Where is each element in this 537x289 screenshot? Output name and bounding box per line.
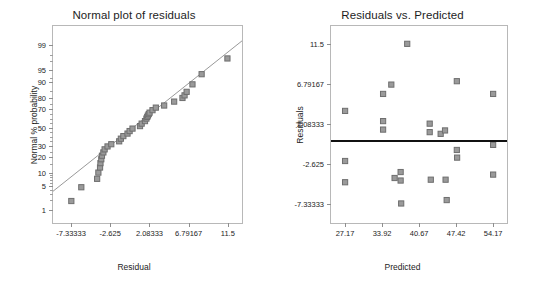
residuals-vs-predicted-panel: Residuals vs. Predicted 27.1733.9240.674… bbox=[268, 0, 537, 289]
residuals-vs-predicted-y-axis-title: Residuals bbox=[295, 85, 305, 165]
normal-plot-title: Normal plot of residuals bbox=[0, 9, 268, 21]
y-minor-tick bbox=[50, 141, 53, 142]
x-tick-label: -2.625 bbox=[100, 229, 121, 238]
y-tick bbox=[327, 164, 331, 165]
y-minor-tick bbox=[50, 91, 53, 92]
data-point bbox=[399, 201, 404, 206]
data-point bbox=[95, 176, 100, 181]
data-point bbox=[443, 177, 448, 182]
y-minor-tick bbox=[50, 104, 53, 105]
y-tick bbox=[49, 45, 53, 46]
y-minor-tick bbox=[50, 78, 53, 79]
data-point bbox=[454, 79, 459, 84]
y-minor-tick bbox=[50, 180, 53, 181]
y-tick-label: 10 bbox=[38, 168, 46, 177]
y-tick bbox=[327, 44, 331, 45]
data-point bbox=[199, 72, 204, 77]
x-tick bbox=[345, 223, 346, 227]
data-point bbox=[398, 178, 403, 183]
data-point bbox=[342, 158, 347, 163]
residuals-vs-predicted-canvas bbox=[331, 26, 507, 223]
data-point bbox=[428, 177, 433, 182]
data-point bbox=[184, 89, 189, 94]
y-tick-label: -2.625 bbox=[303, 159, 324, 168]
y-tick bbox=[49, 210, 53, 211]
y-tick-label: 1 bbox=[42, 205, 46, 214]
y-minor-tick bbox=[50, 190, 53, 191]
y-tick-label: 99 bbox=[38, 41, 46, 50]
y-minor-tick bbox=[50, 194, 53, 195]
data-point bbox=[380, 127, 385, 132]
y-tick bbox=[49, 157, 53, 158]
y-minor-tick bbox=[50, 177, 53, 178]
data-point bbox=[454, 147, 459, 152]
y-tick bbox=[49, 186, 53, 187]
normal-plot-x-axis-title: Residual bbox=[0, 262, 268, 272]
data-point bbox=[190, 82, 195, 87]
y-tick bbox=[49, 109, 53, 110]
data-point bbox=[109, 142, 114, 147]
data-point bbox=[79, 185, 84, 190]
y-minor-tick bbox=[50, 55, 53, 56]
data-point bbox=[130, 126, 135, 131]
normal-plot-y-axis-title: Normal % probability bbox=[29, 85, 39, 165]
y-minor-tick bbox=[50, 200, 53, 201]
y-minor-tick bbox=[50, 164, 53, 165]
y-minor-tick bbox=[50, 132, 53, 133]
y-tick-label: 5 bbox=[42, 181, 46, 190]
normal-plot-canvas bbox=[53, 26, 242, 223]
y-minor-tick bbox=[50, 137, 53, 138]
y-tick-label: 95 bbox=[38, 65, 46, 74]
x-tick bbox=[456, 223, 457, 227]
data-point bbox=[444, 197, 449, 202]
y-tick bbox=[49, 128, 53, 129]
data-point bbox=[342, 180, 347, 185]
residuals-vs-predicted-plot-area: 27.1733.9240.6747.4254.1711.56.791672.08… bbox=[330, 25, 508, 224]
x-tick bbox=[110, 223, 111, 227]
y-tick bbox=[327, 204, 331, 205]
x-tick bbox=[189, 223, 190, 227]
zero-reference-line bbox=[331, 140, 507, 142]
data-point bbox=[392, 175, 397, 180]
y-minor-tick bbox=[50, 114, 53, 115]
data-point bbox=[380, 91, 385, 96]
y-tick bbox=[49, 146, 53, 147]
y-minor-tick bbox=[50, 123, 53, 124]
x-tick-label: 40.67 bbox=[410, 229, 429, 238]
data-point bbox=[389, 82, 394, 87]
x-tick-label: -7.33333 bbox=[56, 229, 86, 238]
x-tick bbox=[149, 223, 150, 227]
data-point bbox=[153, 105, 158, 110]
y-minor-tick bbox=[50, 175, 53, 176]
x-tick-label: 6.79167 bbox=[175, 229, 202, 238]
y-tick bbox=[49, 173, 53, 174]
x-tick-label: 27.17 bbox=[336, 229, 355, 238]
data-point bbox=[442, 128, 447, 133]
data-point bbox=[491, 172, 496, 177]
data-point bbox=[162, 103, 167, 108]
data-point bbox=[69, 198, 74, 203]
data-point bbox=[427, 130, 432, 135]
data-point bbox=[455, 155, 460, 160]
residual-diagnostics-figure: Normal plot of residuals -7.33333-2.6252… bbox=[0, 0, 537, 289]
data-point bbox=[427, 121, 432, 126]
x-tick-label: 11.5 bbox=[221, 229, 235, 238]
x-tick-label: 47.42 bbox=[447, 229, 466, 238]
data-point bbox=[342, 108, 347, 113]
data-point bbox=[491, 142, 496, 147]
y-tick bbox=[49, 98, 53, 99]
x-tick bbox=[493, 223, 494, 227]
residuals-vs-predicted-x-axis-title: Predicted bbox=[268, 262, 537, 272]
y-tick bbox=[327, 124, 331, 125]
data-point bbox=[172, 99, 177, 104]
y-minor-tick bbox=[50, 152, 53, 153]
x-tick-label: 54.17 bbox=[484, 229, 503, 238]
data-point bbox=[398, 169, 403, 174]
y-tick-label: -7.33333 bbox=[294, 199, 324, 208]
data-point bbox=[225, 56, 230, 61]
x-tick bbox=[382, 223, 383, 227]
y-tick-label: 11.5 bbox=[310, 39, 324, 48]
y-tick bbox=[49, 70, 53, 71]
y-tick bbox=[327, 84, 331, 85]
y-minor-tick bbox=[50, 61, 53, 62]
